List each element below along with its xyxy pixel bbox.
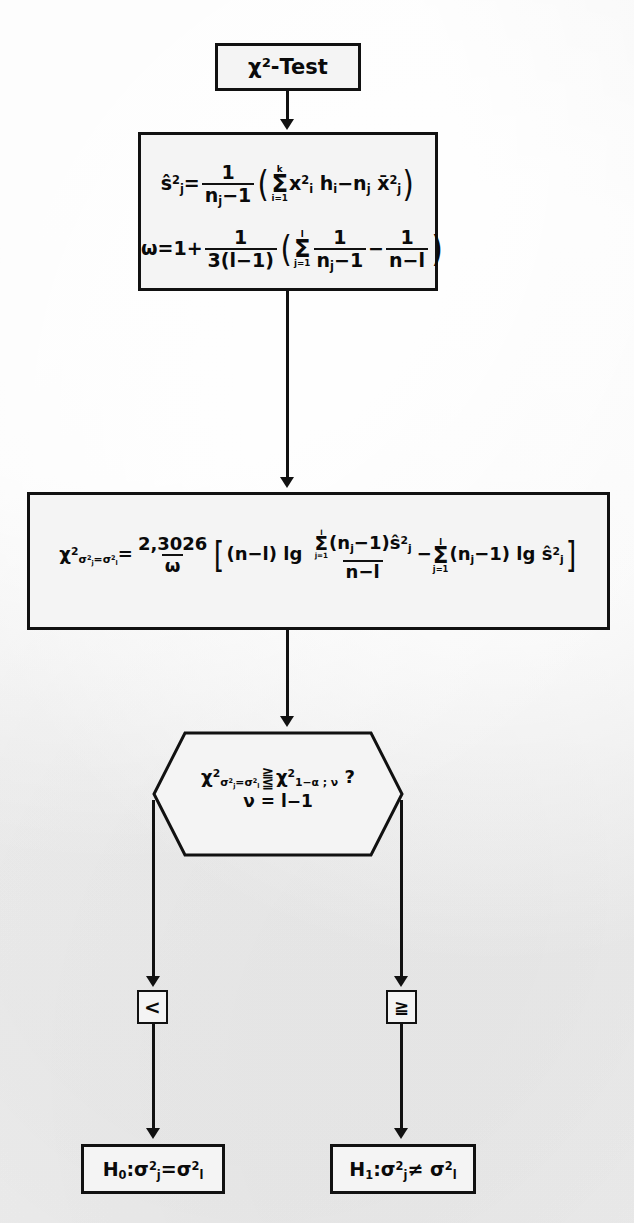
arrowhead-statistic	[280, 477, 294, 488]
decision-line-1: χ2σ2j=σ2l≧≦χ21−α ; ν ?	[152, 767, 404, 788]
compute-formula-box: ŝ2j=1nj−1(kΣi=1x2i hi−nj x̄2j) ω=1+13(l−…	[138, 132, 438, 291]
result-h1-box: H1:σ2j≠ σ2l	[330, 1144, 476, 1194]
edge-statistic-to-decision	[286, 630, 289, 718]
edge-title-to-compute	[286, 91, 289, 121]
decision-hexagon: χ2σ2j=σ2l≧≦χ21−α ; ν ? ν = l−1	[152, 731, 404, 857]
decision-line-2: ν = l−1	[152, 793, 404, 810]
edge-compute-to-statistic	[286, 291, 289, 479]
result-h1-label: H1:σ2j≠ σ2l	[349, 1160, 456, 1179]
edge-less-to-h0	[152, 1024, 155, 1130]
arrowhead-less	[146, 976, 160, 987]
branch-greater-equal-box: ≧	[386, 990, 417, 1024]
relation-stack: ≧≦	[262, 767, 274, 788]
arrowhead-h1	[394, 1128, 408, 1139]
arrowhead-h0	[146, 1128, 160, 1139]
edge-decision-to-greater-equal	[400, 800, 403, 978]
branch-less-label: <	[144, 997, 161, 1017]
result-h0-box: H0:σ2j=σ2l	[81, 1144, 225, 1194]
branch-less-box: <	[137, 990, 168, 1024]
formula-chi-square: χ2σ2j=σ2l=2,3026ω[(n−l) lg lΣj=1(nj−1)ŝ2…	[30, 529, 607, 581]
formula-shat: ŝ2j=1nj−1(kΣi=1x2i hi−nj x̄2j)	[141, 163, 435, 205]
arrowhead-compute	[280, 119, 294, 130]
decision-condition: χ2σ2j=σ2l≧≦χ21−α ; ν ? ν = l−1	[152, 767, 404, 810]
edge-decision-to-less	[152, 800, 155, 978]
edge-greater-equal-to-h1	[400, 1024, 403, 1130]
result-h0-label: H0:σ2j=σ2l	[103, 1160, 204, 1179]
arrowhead-decision	[280, 716, 294, 727]
arrowhead-greater-equal	[394, 976, 408, 987]
branch-greater-equal-label: ≧	[394, 998, 409, 1016]
title-label: χ²-Test	[248, 57, 328, 78]
formula-omega: ω=1+13(l−1)(lΣj=11nj−1−1n−l)	[141, 228, 435, 270]
flowchart-canvas: χ²-Test ŝ2j=1nj−1(kΣi=1x2i hi−nj x̄2j) ω…	[0, 0, 634, 1223]
test-statistic-box: χ2σ2j=σ2l=2,3026ω[(n−l) lg lΣj=1(nj−1)ŝ2…	[27, 492, 610, 630]
title-box: χ²-Test	[215, 43, 361, 91]
